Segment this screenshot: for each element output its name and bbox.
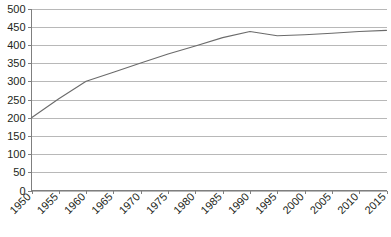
y-axis-label-250: 250 [7, 94, 25, 106]
x-axis-label-2015: 2015 [362, 190, 388, 216]
x-axis-label-1990: 1990 [226, 190, 252, 216]
y-axis-label-50: 50 [13, 166, 25, 178]
y-axis-label-200: 200 [7, 112, 25, 124]
x-axis-label-1955: 1955 [34, 190, 60, 216]
y-axis-label-450: 450 [7, 21, 25, 33]
y-axis-label-500: 500 [7, 3, 25, 15]
line-chart: 050100150200250300350400450500 195019551… [0, 0, 391, 237]
x-axis-labels: 1950195519601965197019751980198519901995… [7, 190, 388, 216]
x-axis-label-1950: 1950 [7, 190, 33, 216]
y-axis-label-100: 100 [7, 148, 25, 160]
y-axis-label-350: 350 [7, 57, 25, 69]
x-axis-label-1975: 1975 [144, 190, 170, 216]
gridlines [32, 10, 387, 192]
x-axis-label-1965: 1965 [89, 190, 115, 216]
series-line-1 [32, 30, 387, 117]
y-axis-labels: 050100150200250300350400450500 [7, 3, 25, 197]
data-series [32, 30, 387, 117]
x-axis-label-2010: 2010 [335, 190, 361, 216]
x-axis-label-2005: 2005 [308, 190, 334, 216]
axes [32, 9, 387, 191]
x-axis-label-1960: 1960 [62, 190, 88, 216]
x-axis-label-1980: 1980 [171, 190, 197, 216]
x-axis-label-2000: 2000 [280, 190, 306, 216]
x-axis-ticks [33, 191, 388, 195]
x-axis-label-1985: 1985 [198, 190, 224, 216]
y-axis-label-300: 300 [7, 75, 25, 87]
chart-canvas: 050100150200250300350400450500 195019551… [0, 0, 391, 237]
y-axis-label-400: 400 [7, 39, 25, 51]
x-axis-label-1970: 1970 [116, 190, 142, 216]
x-axis-label-1995: 1995 [253, 190, 279, 216]
y-axis-label-150: 150 [7, 130, 25, 142]
y-axis-ticks [28, 10, 32, 192]
